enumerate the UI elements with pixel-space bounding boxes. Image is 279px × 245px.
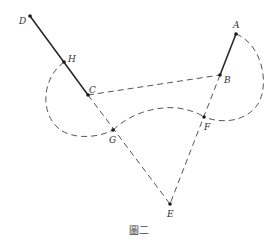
label-C: C (89, 85, 96, 95)
segment-BE (170, 75, 220, 204)
middle-curve (113, 108, 204, 130)
label-D: D (18, 16, 26, 26)
right-arc (204, 34, 263, 121)
point-A (234, 32, 238, 36)
figure-caption: 圖二 (129, 225, 149, 236)
segment-CB (88, 75, 220, 95)
left-arc (46, 62, 113, 137)
label-E: E (166, 209, 174, 219)
geometry-figure: A B C D E F G H 圖二 (0, 0, 279, 245)
point-H (62, 60, 66, 64)
point-E (168, 202, 172, 206)
point-D (28, 14, 32, 18)
point-G (111, 128, 115, 132)
point-B (218, 73, 222, 77)
label-B: B (223, 75, 231, 85)
label-H: H (67, 54, 76, 64)
segment-AB (220, 34, 236, 75)
label-F: F (203, 122, 211, 132)
segment-CE (88, 95, 170, 204)
label-G: G (109, 135, 116, 145)
label-A: A (232, 20, 240, 30)
point-F (202, 115, 206, 119)
segment-DC (30, 16, 88, 95)
